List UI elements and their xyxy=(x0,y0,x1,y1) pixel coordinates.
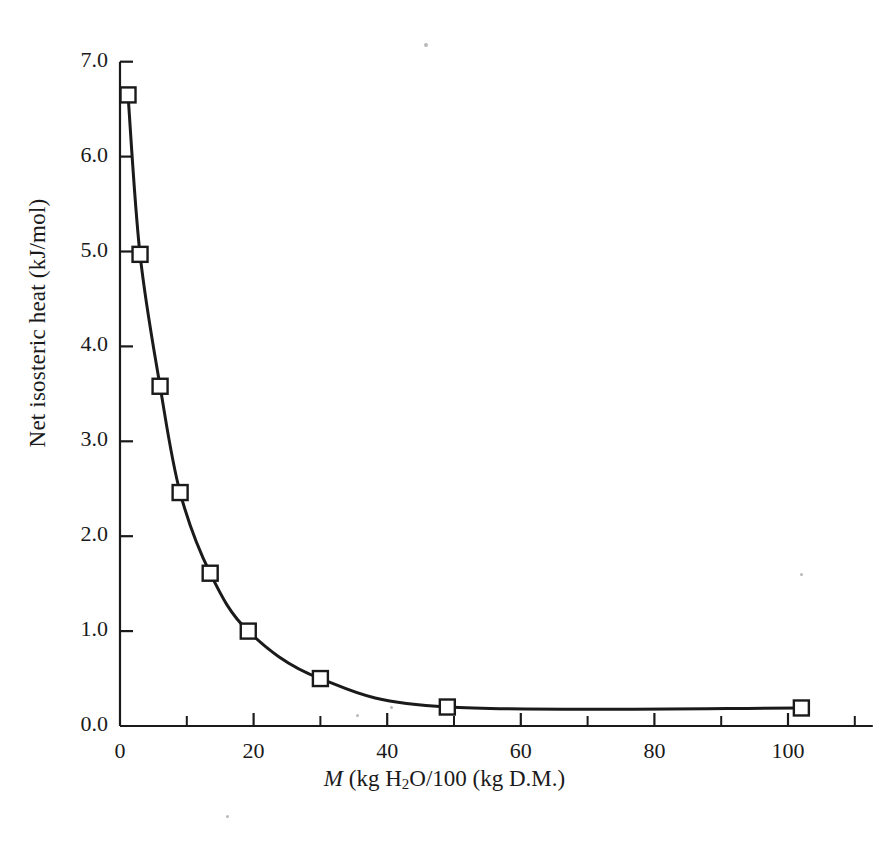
scan-speck xyxy=(800,573,803,576)
x-tick-label: 40 xyxy=(342,738,432,764)
data-point-marker xyxy=(313,671,328,686)
y-tick-label: 2.0 xyxy=(30,521,108,547)
data-point-marker xyxy=(173,485,188,500)
y-tick-label: 6.0 xyxy=(30,142,108,168)
data-point-marker xyxy=(133,247,148,262)
data-point-marker xyxy=(794,700,809,715)
data-point-marker xyxy=(121,87,136,102)
data-point-marker xyxy=(153,379,168,394)
x-tick-label: 100 xyxy=(743,738,833,764)
data-point-marker xyxy=(203,566,218,581)
y-tick-label: 1.0 xyxy=(30,616,108,642)
data-point-marker xyxy=(440,700,455,715)
x-tick-label: 60 xyxy=(476,738,566,764)
x-tick-label: 0 xyxy=(75,738,165,764)
scan-speck xyxy=(226,815,229,818)
y-tick-label: 0.0 xyxy=(30,711,108,737)
y-tick-label: 4.0 xyxy=(30,331,108,357)
y-tick-label: 3.0 xyxy=(30,426,108,452)
y-tick-label: 7.0 xyxy=(30,47,108,73)
y-tick-label: 5.0 xyxy=(30,237,108,263)
x-tick-label: 80 xyxy=(609,738,699,764)
scan-speck xyxy=(356,714,359,717)
scan-speck xyxy=(390,706,393,709)
plot-area xyxy=(0,0,889,842)
chart-figure: Net isosteric heat (kJ/mol) M (kg H2O/10… xyxy=(0,0,889,842)
x-tick-label: 20 xyxy=(209,738,299,764)
data-curve xyxy=(128,95,801,710)
scan-speck xyxy=(424,43,428,47)
data-point-marker xyxy=(241,624,256,639)
